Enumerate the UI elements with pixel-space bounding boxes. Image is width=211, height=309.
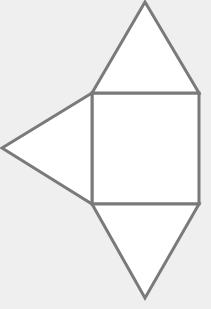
diagram-canvas (0, 0, 211, 309)
pyramid-net-diagram (0, 0, 211, 309)
left-triangle-face (2, 93, 92, 204)
bottom-triangle-face (92, 204, 199, 298)
square-face (92, 93, 199, 204)
top-triangle-face (92, 2, 199, 93)
